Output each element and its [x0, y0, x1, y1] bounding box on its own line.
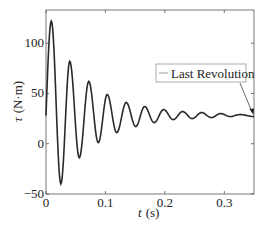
- legend: Last Revolution: [156, 64, 255, 82]
- legend-label: Last Revolution: [171, 66, 255, 81]
- y-axis-label: τ(N·m): [10, 81, 25, 122]
- y-tick-labels: −50050100: [24, 35, 44, 201]
- y-tick-label: 50: [31, 85, 44, 100]
- x-tick-label: 0.3: [216, 195, 232, 210]
- x-tick-label: 0.1: [97, 195, 113, 210]
- x-axis-label: t(s): [138, 205, 159, 220]
- torque-chart: 00.10.20.3 −50050100 Last Revolution t(s…: [0, 0, 268, 230]
- y-tick-label: −50: [24, 186, 44, 201]
- y-tick-label: 100: [25, 35, 45, 50]
- y-tick-label: 0: [38, 136, 45, 151]
- plot-area: [46, 10, 254, 194]
